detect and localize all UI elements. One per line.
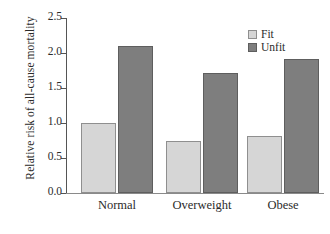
bar-overweight-unfit — [203, 73, 238, 193]
y-axis-tick-label: 2.0 — [48, 45, 62, 57]
legend-item-fit: Fit — [248, 29, 285, 40]
x-axis-label-normal: Normal — [69, 198, 165, 213]
x-axis-label-obese: Obese — [235, 198, 330, 213]
legend-item-unfit: Unfit — [248, 42, 285, 53]
bar-obese-fit — [247, 136, 282, 193]
legend-swatch-fit — [248, 30, 257, 39]
bar-normal-fit — [81, 123, 116, 193]
legend-label-unfit: Unfit — [261, 42, 285, 53]
y-axis-tick-label: 2.5 — [48, 10, 62, 22]
y-axis-tick-label: 0.0 — [48, 185, 62, 197]
y-axis-tick-label: 0.5 — [48, 150, 62, 162]
legend: FitUnfit — [248, 29, 285, 55]
y-axis-tick-label: 1.0 — [48, 115, 62, 127]
y-axis-title: Relative risk of all-cause mortality — [24, 1, 36, 196]
x-axis-line — [66, 193, 324, 194]
legend-label-fit: Fit — [261, 29, 274, 40]
bar-overweight-fit — [166, 141, 201, 194]
y-axis-tick-label: 1.5 — [48, 80, 62, 92]
bar-chart: Relative risk of all-cause mortality 0.0… — [0, 0, 330, 234]
bar-normal-unfit — [118, 46, 153, 193]
y-axis-line — [66, 18, 67, 193]
bar-obese-unfit — [284, 59, 319, 193]
legend-swatch-unfit — [248, 43, 257, 52]
